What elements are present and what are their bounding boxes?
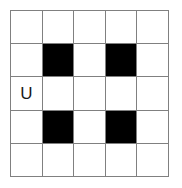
grid-cell[interactable]: [74, 77, 106, 110]
grid-cell[interactable]: [74, 44, 106, 77]
grid-cell[interactable]: [43, 77, 75, 110]
grid-cell[interactable]: [43, 144, 75, 177]
cell-letter-label: U: [20, 85, 32, 102]
grid-cell[interactable]: [74, 11, 106, 44]
pattern-grid: U: [10, 10, 169, 177]
grid-cell[interactable]: [74, 111, 106, 144]
grid-cell[interactable]: [106, 44, 138, 77]
grid-cell[interactable]: [106, 77, 138, 110]
grid-pattern-figure: U: [0, 0, 182, 188]
grid-cell[interactable]: [43, 44, 75, 77]
grid-cell[interactable]: [43, 111, 75, 144]
grid-cell[interactable]: [137, 77, 169, 110]
grid-cell[interactable]: [106, 144, 138, 177]
grid-cell[interactable]: [137, 111, 169, 144]
grid-cell[interactable]: [74, 144, 106, 177]
grid-cell[interactable]: [11, 44, 43, 77]
grid-cell[interactable]: [11, 11, 43, 44]
grid-cell[interactable]: [137, 144, 169, 177]
grid-cell[interactable]: [11, 144, 43, 177]
grid-cell[interactable]: [11, 111, 43, 144]
grid-cell[interactable]: [106, 111, 138, 144]
grid-cell[interactable]: U: [11, 77, 43, 110]
grid-cell[interactable]: [106, 11, 138, 44]
grid-cell[interactable]: [137, 11, 169, 44]
grid-cell[interactable]: [43, 11, 75, 44]
grid-cell[interactable]: [137, 44, 169, 77]
